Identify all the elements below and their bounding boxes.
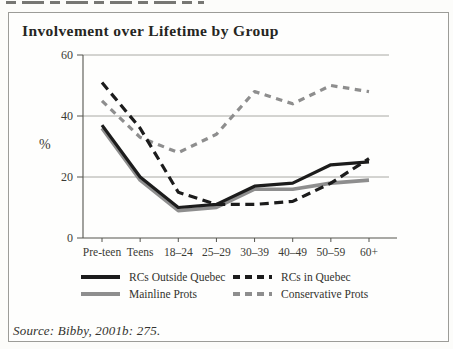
legend-item-rcs-in-quebec: RCs in Quebec [233, 271, 426, 283]
x-axis-category-label: Teens [127, 246, 154, 258]
x-axis-category-label: 18–24 [164, 246, 193, 258]
series-line-rcs-in-quebec [102, 83, 369, 205]
legend-item-rcs-outside-quebec: RCs Outside Quebec [81, 271, 233, 283]
legend-label: RCs in Quebec [281, 271, 351, 283]
legend-swatch-solid-black-line [81, 275, 120, 279]
legend-label: RCs Outside Quebec [129, 271, 225, 283]
legend-item-mainline-prots: Mainline Prots [81, 288, 233, 300]
x-axis-category-label: 30–39 [240, 246, 269, 258]
x-axis-category-label: Pre-teen [83, 246, 122, 258]
legend-label: Conservative Prots [281, 288, 368, 300]
series-line-mainline-prots [102, 128, 369, 210]
y-axis-tick-label: 60 [61, 48, 73, 62]
x-axis-category-label: 25–29 [202, 246, 231, 258]
series-line-conservative-prots [102, 86, 369, 153]
series-line-rcs-outside-quebec [102, 125, 369, 207]
x-axis-category-label: 60+ [360, 246, 378, 258]
legend-swatch-dashed-gray-line [233, 292, 272, 296]
legend-item-conservative-prots: Conservative Prots [233, 288, 426, 300]
clipped-text-line [6, 1, 204, 4]
figure-frame: Involvement over Lifetime by Group 02040… [8, 12, 449, 342]
y-axis-tick-label: 20 [61, 170, 73, 184]
y-axis-tick-label: 0 [67, 231, 73, 245]
x-axis-category-label: 40–49 [278, 246, 307, 258]
legend-swatch-dashed-black-line [233, 275, 272, 279]
legend-swatch-solid-gray-line [81, 292, 120, 296]
y-axis-title: % [39, 137, 51, 152]
chart-legend: RCs Outside Quebec RCs in Quebec Mainlin… [81, 271, 426, 300]
y-axis-tick-label: 40 [61, 109, 73, 123]
line-chart: 0204060Pre-teenTeens18–2425–2930–3940–49… [9, 13, 450, 265]
x-axis-category-label: 50–59 [316, 246, 345, 258]
source-citation: Source: Bibby, 2001b: 275. [13, 323, 160, 339]
legend-label: Mainline Prots [129, 288, 197, 300]
